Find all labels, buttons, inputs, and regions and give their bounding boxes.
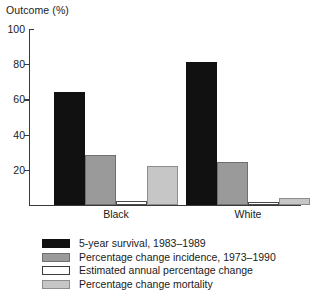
legend-swatch-white [42,266,70,275]
legend-swatch-black [42,239,70,248]
legend-label-incidence-change: Percentage change incidence, 1973–1990 [79,251,276,264]
y-axis-tick-labels: 100 80 60 40 20 [0,29,26,205]
x-category-label-black: Black [103,208,129,220]
legend-label-estimated-annual-change: Estimated annual percentage change [79,264,253,277]
x-category-label-white: White [235,208,262,220]
bars-layer [29,29,301,205]
legend-item-5-year-survival: 5-year survival, 1983–1989 [42,237,302,251]
bar-black-5-year-survival [54,92,85,205]
x-axis-category-labels: Black White [29,208,301,224]
bar-chart-figure: Outcome (%) 100 80 60 40 20 Black Whi [0,0,312,294]
bar-black-incidence-change [85,155,116,205]
bar-white-estimated-annual-change [248,202,279,206]
legend-label-mortality-change: Percentage change mortality [79,278,213,291]
legend-item-estimated-annual-change: Estimated annual percentage change [42,264,302,278]
chart-legend: 5-year survival, 1983–1989 Percentage ch… [42,237,302,291]
y-axis-title: Outcome (%) [6,4,69,16]
bar-white-5-year-survival [186,62,217,205]
y-tick-label-100: 100 [7,24,25,34]
x-axis-line [29,205,301,206]
legend-swatch-light-gray [42,280,70,289]
legend-item-incidence-change: Percentage change incidence, 1973–1990 [42,251,302,265]
bar-white-mortality-change [279,198,310,205]
legend-label-5-year-survival: 5-year survival, 1983–1989 [79,237,206,250]
legend-swatch-dark-gray [42,253,70,262]
plot-area [29,29,301,205]
bar-white-incidence-change [217,162,248,205]
bar-black-estimated-annual-change [116,201,147,205]
bar-black-mortality-change [147,166,178,205]
legend-item-mortality-change: Percentage change mortality [42,278,302,292]
